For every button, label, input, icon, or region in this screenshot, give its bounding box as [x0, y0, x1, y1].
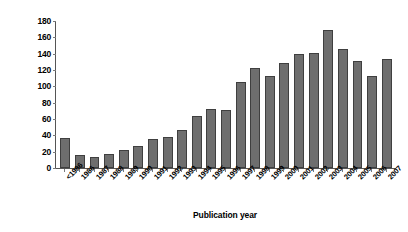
- bar-slot: [248, 21, 263, 168]
- bar: [382, 59, 392, 168]
- x-tick-mark: [313, 169, 314, 172]
- x-tick-slot: 2005: [349, 170, 364, 204]
- plot-area: 180160140120100806040200: [55, 21, 396, 169]
- x-tick-slot: 2007: [378, 170, 393, 204]
- x-tick-slot: 1997: [232, 170, 247, 204]
- x-tick-mark: [342, 169, 343, 172]
- bar-slot: [292, 21, 307, 168]
- x-tick-mark: [356, 169, 357, 172]
- x-tick-slot: 1993: [174, 170, 189, 204]
- x-tick-mark: [196, 169, 197, 172]
- x-tick-mark: [225, 169, 226, 172]
- bar-slot: [350, 21, 365, 168]
- x-tick-mark: [108, 169, 109, 172]
- bar-slot: [146, 21, 161, 168]
- bar: [60, 138, 70, 168]
- bar-slot: [219, 21, 234, 168]
- bar: [353, 61, 363, 168]
- bar-chart: No. of clinical studies 1801601401201008…: [0, 0, 408, 232]
- bar-slot: [73, 21, 88, 168]
- x-tick-mark: [181, 169, 182, 172]
- bar-slot: [321, 21, 336, 168]
- x-tick-slot: 1994: [188, 170, 203, 204]
- bar-slot: [87, 21, 102, 168]
- bar: [206, 109, 216, 168]
- bar-slot: [277, 21, 292, 168]
- bar: [163, 137, 173, 168]
- bar: [221, 110, 231, 168]
- x-tick-slot: 1989: [115, 170, 130, 204]
- x-tick-slot: 1986: [72, 170, 87, 204]
- bar: [323, 30, 333, 168]
- x-tick-slot: 2003: [320, 170, 335, 204]
- x-tick-mark: [152, 169, 153, 172]
- x-tick-slot: 2000: [276, 170, 291, 204]
- bar-series: [56, 21, 396, 168]
- x-tick-mark: [167, 169, 168, 172]
- bar: [338, 49, 348, 168]
- bar: [236, 82, 246, 168]
- bar-slot: [175, 21, 190, 168]
- x-tick-slot: 1998: [247, 170, 262, 204]
- x-tick-slot: 2004: [335, 170, 350, 204]
- x-tick-slot: 1999: [262, 170, 277, 204]
- bar-slot: [306, 21, 321, 168]
- bar: [250, 68, 260, 168]
- x-tick-mark: [210, 169, 211, 172]
- x-tick-slot: 1995: [203, 170, 218, 204]
- bar: [192, 116, 202, 168]
- x-tick-mark: [327, 169, 328, 172]
- x-tick-mark: [64, 169, 65, 172]
- bar-slot: [131, 21, 146, 168]
- x-axis-ticks: <198619861987198819891990199119921993199…: [55, 170, 395, 204]
- x-tick-slot: 2001: [291, 170, 306, 204]
- bar: [279, 63, 289, 168]
- bar-slot: [336, 21, 351, 168]
- bar-slot: [160, 21, 175, 168]
- x-tick-slot: 2006: [364, 170, 379, 204]
- x-tick-mark: [240, 169, 241, 172]
- bar: [177, 130, 187, 168]
- x-tick-slot: 1996: [218, 170, 233, 204]
- x-tick-mark: [123, 169, 124, 172]
- x-tick-mark: [386, 169, 387, 172]
- x-tick-slot: 1988: [101, 170, 116, 204]
- x-tick-slot: 1987: [86, 170, 101, 204]
- x-tick-mark: [137, 169, 138, 172]
- x-tick-slot: 2002: [305, 170, 320, 204]
- x-tick-slot: 1992: [159, 170, 174, 204]
- x-tick-mark: [269, 169, 270, 172]
- x-tick-slot: 1991: [145, 170, 160, 204]
- y-axis-title: No. of clinical studies: [10, 0, 24, 28]
- x-tick-mark: [298, 169, 299, 172]
- x-tick-mark: [254, 169, 255, 172]
- x-tick-mark: [371, 169, 372, 172]
- bar: [265, 76, 275, 168]
- x-tick-mark: [283, 169, 284, 172]
- bar-slot: [189, 21, 204, 168]
- bar-slot: [58, 21, 73, 168]
- bar-slot: [365, 21, 380, 168]
- bar: [367, 76, 377, 168]
- y-tick-mark: [53, 168, 56, 169]
- bar-slot: [233, 21, 248, 168]
- x-axis-title: Publication year: [55, 210, 395, 220]
- x-tick-mark: [94, 169, 95, 172]
- x-tick-slot: <1986: [57, 170, 72, 204]
- bar-slot: [102, 21, 117, 168]
- bar: [309, 53, 319, 168]
- x-tick-slot: 1990: [130, 170, 145, 204]
- bar-slot: [204, 21, 219, 168]
- bar-slot: [116, 21, 131, 168]
- bar: [294, 54, 304, 168]
- x-tick-mark: [79, 169, 80, 172]
- bar: [148, 139, 158, 168]
- bar-slot: [379, 21, 394, 168]
- bar-slot: [263, 21, 278, 168]
